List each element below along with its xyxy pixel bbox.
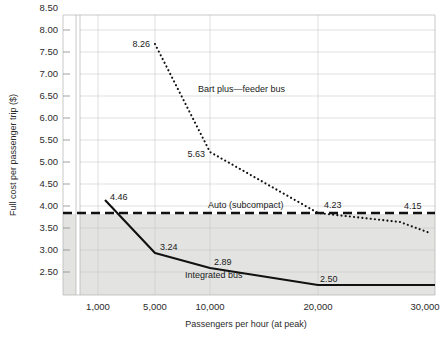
x-axis-title: Passengers per hour (at peak) [185, 319, 307, 329]
annotation-integrated-bus: Integrated bus [185, 270, 243, 280]
shaded-band-main [80, 214, 435, 295]
y-tick-label: 8.50 [40, 2, 59, 13]
x-tick-label: 5,000 [143, 301, 167, 312]
y-tick-label: 3.00 [40, 244, 59, 255]
y-tick-label: 7.50 [40, 46, 59, 57]
data-label-bart-4-23: 4.23 [324, 200, 342, 210]
annotation-auto-subcompact: Auto (subcompact) [208, 200, 284, 210]
annotation-bart-plus-feeder-bus: Bart plus—feeder bus [198, 84, 286, 94]
x-tick-label: 30,000 [410, 301, 439, 312]
y-tick-label: 7.00 [40, 68, 59, 79]
data-label-bart-5-63: 5.63 [187, 149, 205, 159]
y-tick-label: 2.50 [40, 266, 59, 277]
y-tick-label: 5.50 [40, 134, 59, 145]
cost-per-passenger-chart: 2.50 3.00 3.50 4.00 4.50 5.00 5.50 6.00 … [0, 0, 448, 341]
y-tick-label: 4.00 [40, 200, 59, 211]
y-tick-label: 8.00 [40, 24, 59, 35]
data-label-bus-4-46: 4.46 [110, 192, 128, 202]
x-tick-label: 10,000 [195, 301, 224, 312]
y-tick-label: 3.50 [40, 222, 59, 233]
shaded-band-left-strip [63, 214, 76, 295]
data-label-bus-3-24: 3.24 [160, 242, 178, 252]
chart-container: 2.50 3.00 3.50 4.00 4.50 5.00 5.50 6.00 … [0, 0, 448, 341]
x-tick-label: 1,000 [86, 301, 110, 312]
y-tick-label: 4.50 [40, 178, 59, 189]
data-label-bart-8-26: 8.26 [132, 39, 150, 49]
y-tick-label: 6.50 [40, 90, 59, 101]
y-tick-label: 6.00 [40, 112, 59, 123]
data-label-bus-2-89: 2.89 [214, 257, 232, 267]
data-label-bus-2-50: 2.50 [320, 274, 338, 284]
y-tick-label: 5.00 [40, 156, 59, 167]
y-axis-title: Full cost per passenger trip ($) [8, 94, 18, 216]
data-label-bart-4-15: 4.15 [404, 201, 422, 211]
x-tick-label: 20,000 [303, 301, 332, 312]
